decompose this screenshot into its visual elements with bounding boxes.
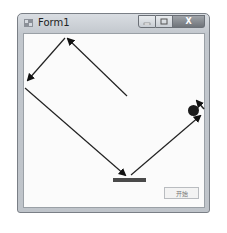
arrow-1	[68, 39, 127, 96]
arrow-2	[28, 38, 65, 80]
annotation-arrows	[0, 0, 227, 233]
arrow-4	[131, 116, 200, 175]
arrow-3	[25, 88, 125, 175]
arrow-5	[197, 101, 204, 109]
